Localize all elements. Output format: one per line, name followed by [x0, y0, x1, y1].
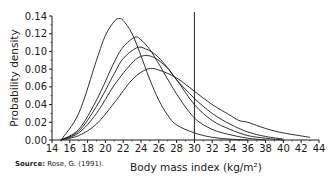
y-tick-label: 0.06: [25, 81, 47, 92]
y-tick-label: 0.10: [25, 46, 47, 57]
x-tick-label: 36: [241, 143, 254, 154]
source-label: Source:: [15, 160, 45, 168]
x-tick-label: 32: [206, 143, 219, 154]
x-axis: 14161820222426283032343638404244: [46, 140, 326, 154]
x-tick-label: 40: [277, 143, 290, 154]
x-tick-label: 26: [152, 143, 165, 154]
x-tick-label: 42: [295, 143, 308, 154]
y-tick-label: 0.02: [25, 117, 47, 128]
y-tick-label: 0.14: [25, 11, 47, 22]
density-curves: [61, 18, 310, 140]
y-axis: 0.000.020.040.060.080.100.120.14: [25, 11, 52, 146]
x-tick-label: 24: [135, 143, 148, 154]
source-text: Rose, G. (1991).: [45, 160, 104, 168]
source-citation: Source: Rose, G. (1991).: [15, 160, 104, 168]
x-tick-label: 34: [224, 143, 237, 154]
x-tick-label: 44: [313, 143, 326, 154]
y-tick-label: 0.08: [25, 64, 47, 75]
x-tick-label: 14: [46, 143, 59, 154]
density-curve-1: [61, 18, 248, 140]
y-axis-title: Probability density: [8, 29, 20, 126]
x-tick-label: 18: [81, 143, 94, 154]
x-tick-label: 22: [117, 143, 130, 154]
x-tick-label: 30: [188, 143, 201, 154]
x-tick-label: 28: [170, 143, 183, 154]
x-tick-label: 20: [99, 143, 112, 154]
x-tick-label: 38: [259, 143, 272, 154]
density-curve-2: [61, 37, 266, 140]
y-tick-label: 0.04: [25, 99, 47, 110]
x-tick-label: 16: [63, 143, 76, 154]
y-tick-label: 0.12: [25, 28, 47, 39]
bmi-density-chart: 0.000.020.040.060.080.100.120.14 1416182…: [0, 0, 332, 179]
y-tick-label: 0.00: [25, 135, 47, 146]
x-axis-title: Body mass index (kg/m²): [130, 161, 262, 173]
